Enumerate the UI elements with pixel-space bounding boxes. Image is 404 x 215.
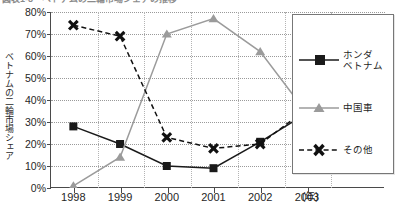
chart-figure: 図表1-8 ベトナムの二輪市場シェアの推移 ベトナムの二輪市場シェア 80%70… xyxy=(0,0,404,215)
legend-label-line1: 中国車 xyxy=(343,102,393,114)
x-tick-mark xyxy=(168,188,169,193)
triangle-marker xyxy=(298,91,340,125)
data-point-marker xyxy=(115,153,125,161)
y-tick-mark xyxy=(47,188,51,189)
y-tick-label: 60% xyxy=(14,50,46,62)
legend-label: ホンダベトナム xyxy=(343,43,393,77)
data-point-marker xyxy=(209,164,217,172)
x-tick-mark xyxy=(308,188,309,193)
square-marker xyxy=(298,43,340,77)
series-line xyxy=(73,113,307,168)
legend-item: その他 xyxy=(293,133,393,167)
x-tick-mark xyxy=(214,188,215,193)
legend-item: ホンダベトナム xyxy=(293,43,393,77)
chart-legend: ホンダベトナム中国車その他 xyxy=(292,14,394,174)
x-tick-mark xyxy=(74,188,75,193)
data-point-marker xyxy=(116,140,124,148)
x-tick-mark xyxy=(121,188,122,193)
series-line xyxy=(73,25,307,148)
series-other xyxy=(69,21,311,153)
data-point-marker xyxy=(209,14,219,22)
series-honda xyxy=(69,109,311,172)
y-axis-label: ベトナムの二輪市場シェア xyxy=(1,26,14,186)
legend-label: その他 xyxy=(343,133,393,167)
y-tick-label: 70% xyxy=(14,28,46,40)
y-tick-label: 50% xyxy=(14,72,46,84)
y-tick-label: 80% xyxy=(14,6,46,18)
y-tick-label: 40% xyxy=(14,94,46,106)
data-point-marker xyxy=(209,144,218,153)
data-point-marker xyxy=(163,162,171,170)
legend-label-line1: その他 xyxy=(343,144,393,156)
legend-label-line2: ベトナム xyxy=(343,60,393,72)
y-tick-label: 30% xyxy=(14,116,46,128)
legend-label-line1: ホンダ xyxy=(343,49,393,61)
y-tick-label: 20% xyxy=(14,138,46,150)
data-point-marker xyxy=(69,122,77,130)
legend-label: 中国車 xyxy=(343,91,393,125)
x-marker xyxy=(298,133,340,167)
legend-item: 中国車 xyxy=(293,91,393,125)
data-point-marker xyxy=(162,133,171,142)
y-tick-label: 10% xyxy=(14,160,46,172)
x-tick-mark xyxy=(261,188,262,193)
data-point-marker xyxy=(68,181,78,188)
chart-title: 図表1-8 ベトナムの二輪市場シェアの推移 xyxy=(2,0,262,4)
series-china xyxy=(68,14,312,188)
series-line xyxy=(73,19,307,186)
y-tick-label: 0% xyxy=(14,182,46,194)
